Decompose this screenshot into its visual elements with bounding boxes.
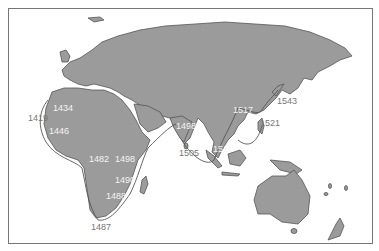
new-zealand [328, 218, 344, 240]
label-1517: 1517 [233, 106, 253, 115]
label-1505: 1505 [179, 149, 199, 158]
label-1498-india: 1498 [176, 122, 196, 131]
label-1543: 1543 [277, 97, 297, 106]
tasmania [291, 229, 297, 234]
label-1482: 1482 [89, 155, 109, 164]
java [222, 172, 240, 176]
label-1511: 1511 [213, 145, 232, 154]
british-isles [60, 50, 70, 62]
new-guinea [270, 160, 302, 174]
label-1419: 1419 [28, 114, 48, 123]
australia [254, 170, 310, 224]
label-1490: 1490 [115, 176, 135, 185]
label-1446: 1446 [49, 127, 69, 136]
svalbard [88, 17, 104, 22]
label-1521: 1521 [260, 119, 280, 128]
madagascar [140, 176, 148, 194]
label-1487: 1487 [91, 223, 111, 232]
label-1488: 1488 [106, 192, 126, 201]
label-1434: 1434 [53, 104, 73, 113]
label-1498-africa: 1498 [115, 155, 135, 164]
